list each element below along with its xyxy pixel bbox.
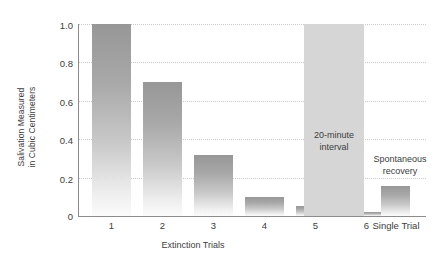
x-tick-label-6: 6 <box>364 220 369 231</box>
bar-spontaneous-recovery <box>381 186 410 216</box>
gridline-0_2: 0.2 <box>79 178 426 179</box>
x-axis-line <box>78 216 426 217</box>
x-tick-label-3: 3 <box>211 220 216 231</box>
interval-annotation-line-2: interval <box>304 142 364 154</box>
gridline-1_0: 1.0 <box>79 24 426 25</box>
recovery-annotation-line-1: Spontaneous <box>364 154 436 166</box>
gridline-0_8: 0.8 <box>79 62 426 63</box>
y-axis-title-line-2: in Cubic Centimeters <box>27 52 38 202</box>
gridline-0_6: 0.6 <box>79 101 426 102</box>
y-axis-title-line-1: Salivation Measured <box>16 52 27 202</box>
x-tick-label-1: 1 <box>109 220 114 231</box>
interval-annotation-line-1: 20-minute <box>304 130 364 142</box>
gridline-0_4: 0.4 <box>79 139 426 140</box>
recovery-annotation: Spontaneous recovery <box>364 154 436 177</box>
plot-area: 1.0 0.8 0.6 0.4 0.2 0 20-minute in <box>78 24 426 216</box>
y-tick-label-0_6: 0.6 <box>60 96 73 107</box>
y-axis-title: Salivation Measured in Cubic Centimeters <box>16 52 46 202</box>
x-tick-label-4: 4 <box>262 220 267 231</box>
bar-trial-1 <box>92 24 131 216</box>
y-tick-label-0_8: 0.8 <box>60 58 73 69</box>
x-tick-label-5: 5 <box>313 220 318 231</box>
y-tick-label-1_0: 1.0 <box>60 20 73 31</box>
bar-interval-block <box>304 24 364 216</box>
bar-trial-3 <box>194 155 233 216</box>
bar-trial-2 <box>143 82 182 216</box>
x-axis-title: Extinction Trials <box>78 240 308 250</box>
y-tick-label-0: 0 <box>68 211 73 222</box>
y-tick-label-0_4: 0.4 <box>60 135 73 146</box>
bar-trial-4 <box>245 197 284 216</box>
x-tick-label-2: 2 <box>160 220 165 231</box>
interval-annotation: 20-minute interval <box>304 130 364 153</box>
bar-chart: Salivation Measured in Cubic Centimeters… <box>0 0 437 265</box>
y-tick-label-0_2: 0.2 <box>60 173 73 184</box>
x-tick-label-single-trial: Single Trial <box>373 220 420 231</box>
y-axis-line <box>78 24 79 216</box>
recovery-annotation-line-2: recovery <box>364 166 436 178</box>
